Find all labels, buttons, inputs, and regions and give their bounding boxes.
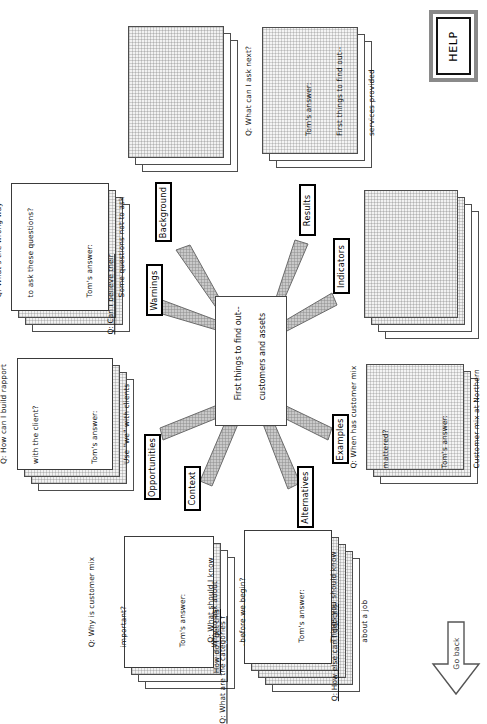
spoke-label-indicators[interactable]: Indicators: [333, 238, 350, 294]
card-answer-line1: Customer mix at Northern: [471, 366, 482, 469]
card-question-line2: with the client?: [30, 364, 41, 464]
center-node-line2: customers and assets: [258, 313, 267, 400]
card-stack-warnings[interactable]: Q: Can I believe their Q: What's the wro…: [11, 183, 133, 338]
center-node[interactable]: First things to find out-- customers and…: [215, 296, 287, 426]
card-sheet-front[interactable]: Q: What's the wrong way to ask these que…: [11, 183, 109, 311]
card-answer-label: Tom's answer:: [85, 197, 96, 298]
card-stack-alternatives[interactable]: Q: How else can I get this Q: What shoul…: [244, 530, 360, 700]
help-button[interactable]: HELP: [429, 10, 478, 82]
spoke-label-background-text: Background: [159, 186, 168, 238]
card-question-line1: Q: How can I build rapport: [0, 364, 9, 464]
spoke-label-warnings-text: Warnings: [150, 270, 159, 310]
card-question: Q: What can I ask next?: [244, 45, 255, 135]
card-question-line2: mattered?: [380, 366, 391, 469]
card-front-text: Q: What should I know before we begin? T…: [245, 531, 331, 663]
card-answer-line1: First things to find out--: [335, 45, 346, 135]
card-answer-line1: Use "we" with clients: [121, 364, 132, 464]
spoke-label-results[interactable]: Results: [299, 184, 316, 236]
wedge-examples: [280, 404, 332, 440]
card-front-text: Q: What can I ask next? Tom's answer: Fi…: [263, 28, 357, 153]
card-question-line1: Q: When has customer mix: [349, 366, 360, 469]
card-answer-line2: about a job: [360, 551, 371, 642]
card-stack-opportunities[interactable]: Q: How can I build rapport with the clie…: [17, 358, 137, 498]
go-back-label-wrap: Go back: [430, 620, 482, 696]
go-back-label: Go back: [451, 637, 460, 669]
help-button-label: HELP: [447, 31, 460, 61]
spoke-label-alternatives-text: Alternatives: [301, 471, 310, 523]
wedge-warnings: [159, 300, 221, 331]
card-front-text: Q: When has customer mix mattered? Tom's…: [367, 365, 463, 469]
spoke-label-warnings[interactable]: Warnings: [146, 264, 163, 316]
card-stack-examples[interactable]: Q: When has customer mix mattered? Tom's…: [366, 364, 482, 494]
card-answer-line1: Things you should know: [328, 551, 339, 642]
card-answer-label: Tom's answer:: [90, 364, 101, 464]
spoke-label-results-text: Results: [303, 194, 312, 225]
wedge-context: [200, 418, 238, 486]
card-answer-label: Tom's answer:: [297, 551, 308, 642]
card-question-line1: Q: What should I know: [206, 551, 217, 642]
card-front-text: Q: What's the wrong way to ask these que…: [12, 184, 108, 310]
spoke-label-indicators-text: Indicators: [337, 245, 346, 288]
card-sheet[interactable]: [364, 190, 458, 318]
card-answer-label: Tom's answer:: [303, 45, 314, 135]
spoke-label-context[interactable]: Context: [184, 466, 201, 511]
spoke-label-alternatives[interactable]: Alternatives: [297, 466, 314, 528]
wedge-alternatives: [263, 418, 300, 489]
card-sheet-front[interactable]: Q: What should I know before we begin? T…: [244, 530, 332, 664]
card-question-line1: Q: Why is customer mix: [87, 557, 98, 648]
spoke-label-background[interactable]: Background: [155, 182, 172, 242]
wedge-opportunities: [160, 404, 222, 440]
center-node-line1: First things to find out--: [234, 306, 243, 400]
card-sheet[interactable]: [128, 26, 224, 158]
card-question-line2: to ask these questions?: [25, 197, 36, 298]
card-question-line2: important?: [118, 557, 129, 648]
card-question-line2: before we begin?: [237, 551, 248, 642]
spoke-label-context-text: Context: [188, 472, 197, 506]
center-node-text: First things to find out-- customers and…: [221, 306, 281, 415]
card-answer-line2: services provided: [366, 45, 377, 135]
card-question-line1: Q: What's the wrong way: [0, 197, 4, 298]
go-back-button[interactable]: Go back: [430, 620, 482, 696]
card-front-text: Q: How can I build rapport with the clie…: [18, 359, 112, 469]
card-sheet-front[interactable]: Q: What can I ask next? Tom's answer: Fi…: [262, 27, 358, 154]
card-sheet-front[interactable]: Q: When has customer mix mattered? Tom's…: [366, 364, 464, 470]
card-answer-line1: Some questions not to ask: [116, 197, 127, 298]
card-stack-results[interactable]: Q: What can I ask next? Tom's answer: Fi…: [262, 27, 374, 177]
wedge-indicators: [281, 293, 337, 333]
card-stack-indicators[interactable]: [364, 190, 482, 345]
card-sheet-front[interactable]: Q: How can I build rapport with the clie…: [17, 358, 113, 470]
card-answer-label: Tom's answer:: [440, 366, 451, 469]
